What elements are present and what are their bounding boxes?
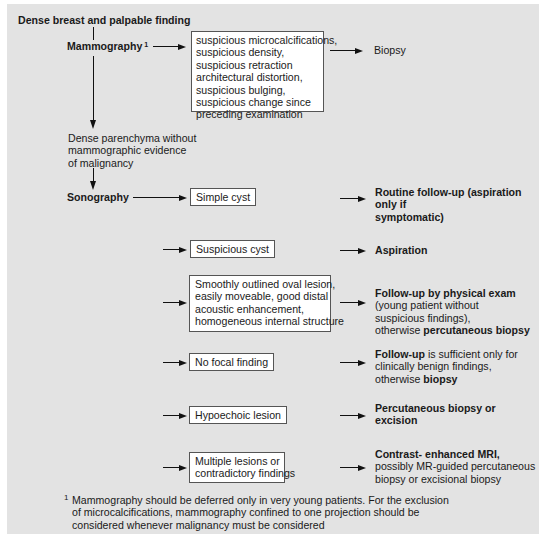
arrowhead-right-icon [358, 300, 366, 306]
arrow-hypoechoic-outcome [340, 415, 360, 416]
finding-line: architectural distortion, [196, 71, 319, 83]
outcome-line: otherwise [375, 373, 423, 385]
outcome-line: suspicious findings), [375, 312, 470, 324]
outcome-suspicious-cyst: Aspiration [375, 244, 427, 256]
outcome-line: (young patient without [375, 299, 479, 311]
arrow-no-focal-outcome [340, 362, 360, 363]
finding-label: Hypoechoic lesion [195, 409, 281, 421]
outcome-line: Percutaneous biopsy or [375, 402, 496, 414]
arrow-findings-biopsy [330, 50, 356, 51]
arrowhead-right-icon [179, 300, 187, 306]
arrowhead-right-icon [179, 465, 187, 471]
arrow-sonography-simple-cyst [133, 197, 180, 198]
connector-title-mammography [93, 27, 94, 40]
finding-line: Smoothly outlined oval lesion, [195, 278, 325, 290]
parenchyma-line: of malignancy [68, 157, 196, 169]
arrow-simple-cyst-outcome [340, 198, 360, 199]
arrowhead-right-icon [358, 360, 366, 366]
arrowhead-right-icon [358, 248, 366, 254]
finding-line: Multiple lesions or [195, 455, 279, 467]
arrow-hypoechoic-lesion [163, 415, 180, 416]
node-biopsy: Biopsy [374, 44, 406, 56]
outcome-line: Routine follow-up (aspiration only if [375, 186, 522, 210]
finding-box-hypoechoic-lesion: Hypoechoic lesion [189, 406, 287, 424]
finding-line: suspicious density, [196, 46, 319, 58]
arrowhead-right-icon [178, 44, 186, 50]
connector-parenchyma-sonography [93, 168, 94, 182]
node-dense-parenchyma: Dense parenchyma without mammographic ev… [68, 132, 196, 169]
finding-box-oval-lesion: Smoothly outlined oval lesion, easily mo… [189, 275, 331, 332]
outcome-line: Contrast- enhanced MRI, [375, 448, 500, 460]
footnote-line: Mammography should be deferred only in v… [64, 494, 484, 506]
finding-line: easily moveable, good distal [195, 290, 325, 302]
footnote-mark: 1 [144, 41, 148, 48]
arrowhead-right-icon [179, 195, 187, 201]
arrowhead-right-icon [358, 413, 366, 419]
finding-box-multiple-lesions: Multiple lesions or contradictory findin… [189, 452, 285, 483]
finding-line: homogeneous internal structure [195, 315, 325, 327]
finding-line: suspicious microcalcifications, [196, 34, 319, 46]
arrowhead-right-icon [179, 413, 187, 419]
outcome-line: biopsy or excisional biopsy [375, 473, 501, 485]
finding-line: suspicious bulging, [196, 84, 319, 96]
arrowhead-right-icon [179, 360, 187, 366]
arrowhead-right-icon [179, 247, 187, 253]
finding-label: Suspicious cyst [196, 243, 269, 255]
outcome-line: Aspiration [375, 244, 427, 256]
arrowhead-right-icon [358, 196, 366, 202]
outcome-multiple-lesions: Contrast- enhanced MRI, possibly MR-guid… [375, 448, 535, 485]
parenchyma-line: Dense parenchyma without [68, 132, 196, 144]
arrowhead-down-icon [90, 181, 96, 190]
arrow-multiple-lesions-outcome [340, 467, 360, 468]
outcome-line: Follow-up by physical exam [375, 287, 516, 299]
outcome-line: is sufficient only for [425, 348, 518, 360]
outcome-line: possibly MR-guided percutaneous [375, 460, 535, 472]
outcome-line: excision [375, 414, 417, 426]
outcome-no-focal-finding: Follow-up is sufficient only for clinica… [375, 348, 518, 385]
outcome-line: symptomatic) [375, 211, 444, 223]
mammography-findings-box: suspicious microcalcifications, suspicio… [191, 31, 324, 112]
finding-line: preceding examination [196, 108, 319, 120]
outcome-simple-cyst: Routine follow-up (aspiration only if sy… [375, 186, 546, 223]
arrow-suspicious-cyst [163, 249, 180, 250]
arrow-oval-lesion-outcome [340, 302, 360, 303]
finding-label: Simple cyst [196, 191, 250, 203]
parenchyma-line: mammographic evidence [68, 144, 196, 156]
mammography-label: Mammography [67, 40, 142, 52]
footnote: 1 Mammography should be deferred only in… [64, 494, 484, 531]
arrow-no-focal-finding [163, 362, 180, 363]
arrow-oval-lesion [163, 302, 180, 303]
arrow-suspicious-cyst-outcome [340, 250, 360, 251]
outcome-line-bold: biopsy [423, 373, 457, 385]
finding-box-suspicious-cyst: Suspicious cyst [190, 240, 275, 258]
footnote-mark: 1 [64, 492, 68, 504]
finding-box-simple-cyst: Simple cyst [190, 188, 256, 206]
outcome-hypoechoic-lesion: Percutaneous biopsy or excision [375, 402, 496, 427]
finding-line: suspicious retraction [196, 59, 319, 71]
connector-mammography-parenchyma [93, 56, 94, 121]
outcome-line-bold: Follow-up [375, 348, 425, 360]
node-sonography: Sonography [67, 191, 129, 203]
finding-line: contradictory findings [195, 467, 279, 479]
arrowhead-right-icon [355, 48, 363, 54]
outcome-line: clinically benign findings, [375, 360, 492, 372]
arrowhead-down-icon [90, 120, 96, 129]
outcome-line-bold: percutaneous biopsy [423, 324, 530, 336]
outcome-line: otherwise [375, 324, 423, 336]
finding-line: suspicious change since [196, 96, 319, 108]
finding-box-no-focal-finding: No focal finding [189, 353, 274, 371]
arrow-multiple-lesions [163, 467, 180, 468]
arrow-mammography-findings [153, 46, 179, 47]
outcome-oval-lesion: Follow-up by physical exam (young patien… [375, 287, 530, 337]
footnote-line: of microcalcifications, mammography conf… [64, 506, 484, 518]
footnote-line: considered whenever malignancy must be c… [64, 519, 484, 531]
finding-label: No focal finding [195, 356, 268, 368]
finding-line: acoustic enhancement, [195, 303, 325, 315]
arrowhead-right-icon [358, 465, 366, 471]
diagram-title: Dense breast and palpable finding [18, 14, 190, 26]
node-mammography: Mammography1 [67, 40, 148, 52]
